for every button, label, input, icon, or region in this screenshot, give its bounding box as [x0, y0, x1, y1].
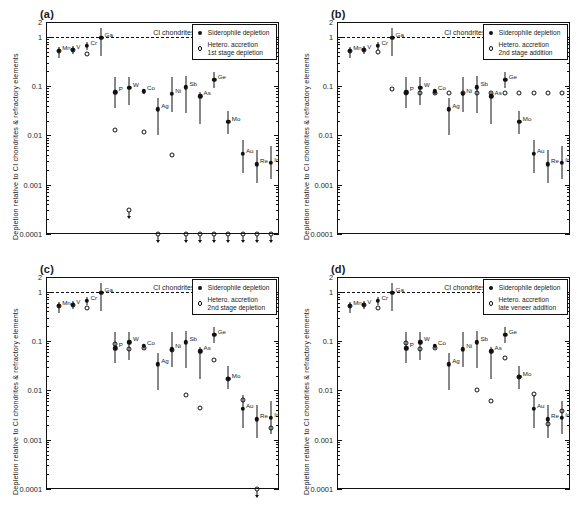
- element-label: Sb: [480, 335, 488, 342]
- data-point-open: [127, 347, 132, 352]
- y-minor-tick: [337, 94, 340, 95]
- y-minor-tick-right: [567, 88, 570, 89]
- data-point-open: [517, 374, 522, 379]
- element-label: P: [119, 341, 123, 348]
- y-minor-tick: [46, 277, 49, 278]
- y-minor-tick: [337, 52, 340, 53]
- y-minor-tick: [46, 138, 49, 139]
- y-minor-tick-right: [567, 398, 570, 399]
- y-tick-label: 2: [0, 18, 42, 27]
- data-point-open: [70, 302, 75, 307]
- y-minor-tick-right: [567, 189, 570, 190]
- y-tick-label: 1: [0, 32, 42, 41]
- y-minor-tick-right: [276, 356, 279, 357]
- data-point-open: [517, 91, 522, 96]
- y-minor-tick-right: [276, 97, 279, 98]
- legend-label-siderophile: Siderophile depletion: [208, 29, 270, 37]
- open-circle-icon: [198, 301, 203, 306]
- y-minor-tick: [337, 187, 340, 188]
- y-minor-tick-right: [276, 192, 279, 193]
- filled-circle-icon: [489, 31, 493, 35]
- element-label: Co: [147, 84, 155, 91]
- y-minor-tick-right: [276, 352, 279, 353]
- element-label: Ni: [175, 342, 181, 349]
- y-minor-tick-right: [276, 401, 279, 402]
- data-point-open: [559, 409, 564, 414]
- y-minor-tick: [46, 71, 49, 72]
- y-tick-label: 0.01: [291, 386, 333, 395]
- y-minor-tick: [337, 63, 340, 64]
- y-minor-tick: [337, 204, 340, 205]
- data-point-open: [184, 393, 189, 398]
- y-minor-tick: [337, 307, 340, 308]
- element-label: Sb: [189, 80, 197, 87]
- y-minor-tick-right: [276, 451, 279, 452]
- element-label: Ge: [218, 327, 226, 334]
- upper-limit-arrowhead: [156, 240, 160, 243]
- data-point-open: [503, 91, 508, 96]
- y-minor-tick: [337, 138, 340, 139]
- y-minor-tick: [337, 459, 340, 460]
- error-bar: [448, 353, 449, 391]
- y-minor-tick-right: [276, 447, 279, 448]
- y-minor-tick-right: [567, 425, 570, 426]
- y-minor-tick: [337, 444, 340, 445]
- y-minor-tick-right: [567, 367, 570, 368]
- y-tick-mark-right: [274, 390, 279, 391]
- y-tick-label: 0.01: [0, 386, 42, 395]
- y-minor-tick-right: [276, 150, 279, 151]
- y-minor-tick: [46, 376, 49, 377]
- element-label: Ge: [218, 72, 226, 79]
- y-minor-tick: [337, 170, 340, 171]
- element-label: Ir: [565, 155, 569, 162]
- y-minor-tick: [337, 356, 340, 357]
- y-tick-mark: [46, 390, 51, 391]
- y-minor-tick-right: [276, 146, 279, 147]
- element-label: Ir: [274, 155, 278, 162]
- panel-tag-c: (c): [40, 263, 54, 275]
- y-minor-tick: [337, 97, 340, 98]
- data-point-open: [113, 127, 118, 132]
- y-minor-tick: [337, 88, 340, 89]
- legend-label-hetero-accretion: Hetero. accretion 1st stage depletion: [208, 41, 263, 56]
- upper-limit-arrowhead: [198, 240, 202, 243]
- legend-label-hetero-accretion: Hetero. accretion 2nd stage addition: [499, 41, 553, 56]
- y-tick-label: 0.0001: [0, 230, 42, 239]
- data-point-open: [531, 391, 536, 396]
- element-label: Co: [438, 338, 446, 345]
- y-minor-tick-right: [567, 101, 570, 102]
- y-minor-tick: [337, 425, 340, 426]
- y-minor-tick: [46, 442, 49, 443]
- element-label: Co: [438, 84, 446, 91]
- y-minor-tick-right: [567, 474, 570, 475]
- element-label: W: [424, 335, 430, 342]
- element-label: Ni: [175, 86, 181, 93]
- y-minor-tick-right: [276, 395, 279, 396]
- data-point-open: [559, 91, 564, 96]
- y-minor-tick-right: [567, 150, 570, 151]
- upper-limit-arrowhead: [226, 240, 230, 243]
- y-minor-tick-right: [567, 219, 570, 220]
- element-label: Ag: [161, 102, 169, 109]
- y-minor-tick: [46, 196, 49, 197]
- y-minor-tick-right: [567, 451, 570, 452]
- y-minor-tick: [337, 101, 340, 102]
- error-bar: [392, 28, 393, 56]
- y-minor-tick: [46, 352, 49, 353]
- y-tick-label: 1: [0, 287, 42, 296]
- y-minor-tick: [46, 97, 49, 98]
- y-minor-tick-right: [567, 94, 570, 95]
- y-minor-tick-right: [276, 393, 279, 394]
- y-minor-tick-right: [276, 349, 279, 350]
- y-minor-tick-right: [276, 189, 279, 190]
- y-minor-tick: [46, 297, 49, 298]
- legend-label-hetero-accretion: Hetero. accretion 2nd stage depletion: [208, 296, 266, 311]
- y-minor-tick: [46, 299, 49, 300]
- y-minor-tick: [46, 112, 49, 113]
- y-minor-tick-right: [567, 277, 570, 278]
- y-minor-tick: [337, 451, 340, 452]
- y-minor-tick-right: [567, 170, 570, 171]
- y-tick-mark-right: [274, 234, 279, 235]
- element-label: Mo: [232, 114, 241, 121]
- error-bar: [533, 395, 534, 429]
